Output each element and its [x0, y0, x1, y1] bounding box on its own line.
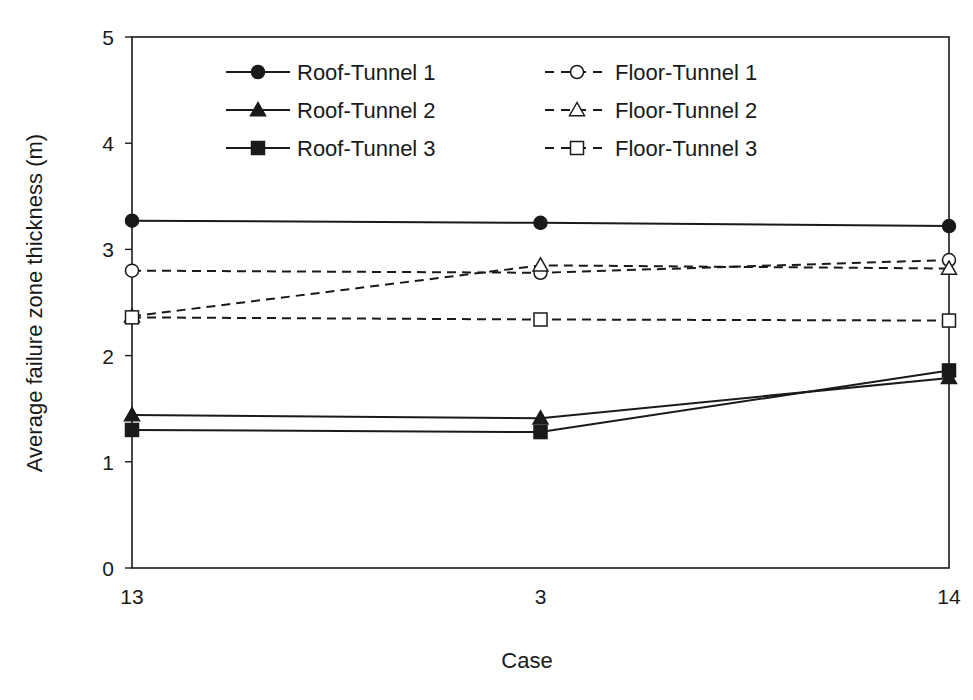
- legend-label: Roof-Tunnel 2: [297, 98, 436, 123]
- legend-item: Roof-Tunnel 1: [226, 60, 436, 85]
- circle-marker-icon: [126, 264, 139, 277]
- y-tick-label: 2: [102, 345, 114, 368]
- series-floor-tunnel-3: [126, 311, 956, 327]
- x-tick-label: 14: [937, 585, 961, 608]
- square-marker-icon: [126, 423, 139, 436]
- circle-marker-icon: [571, 66, 584, 79]
- y-tick-label: 4: [102, 132, 114, 155]
- legend-label: Floor-Tunnel 2: [615, 98, 757, 123]
- square-marker-icon: [943, 364, 956, 377]
- circle-marker-icon: [252, 66, 265, 79]
- legend-item: Roof-Tunnel 2: [226, 98, 436, 123]
- x-tick-label: 3: [535, 585, 547, 608]
- legend-item: Floor-Tunnel 2: [545, 98, 757, 123]
- circle-marker-icon: [534, 216, 547, 229]
- series-roof-tunnel-2: [125, 370, 957, 423]
- legend-label: Roof-Tunnel 3: [297, 136, 436, 161]
- y-tick-label: 1: [102, 451, 114, 474]
- circle-marker-icon: [126, 214, 139, 227]
- square-marker-icon: [534, 426, 547, 439]
- plot-frame: [132, 37, 949, 568]
- y-axis: 012345: [102, 26, 132, 580]
- x-tick-label: 13: [120, 585, 143, 608]
- square-marker-icon: [534, 313, 547, 326]
- legend-label: Floor-Tunnel 3: [615, 136, 757, 161]
- x-axis: 13314: [120, 585, 961, 608]
- legend-item: Floor-Tunnel 1: [545, 60, 757, 85]
- plot-border: [132, 37, 949, 568]
- square-marker-icon: [126, 311, 139, 324]
- y-tick-label: 5: [102, 26, 114, 49]
- legend-label: Floor-Tunnel 1: [615, 60, 757, 85]
- series-roof-tunnel-3: [126, 364, 956, 439]
- square-marker-icon: [252, 142, 265, 155]
- series-layer: [125, 214, 957, 438]
- legend-label: Roof-Tunnel 1: [297, 60, 436, 85]
- legend-item: Floor-Tunnel 3: [545, 136, 757, 161]
- y-axis-title: Average failure zone thickness (m): [22, 134, 47, 472]
- legend: Roof-Tunnel 1Roof-Tunnel 2Roof-Tunnel 3F…: [226, 60, 757, 161]
- legend-item: Roof-Tunnel 3: [226, 136, 436, 161]
- x-axis-title: Case: [501, 648, 552, 673]
- square-marker-icon: [943, 314, 956, 327]
- y-tick-label: 3: [102, 238, 114, 261]
- line-chart: 012345 13314 Roof-Tunnel 1Roof-Tunnel 2R…: [0, 0, 973, 700]
- square-marker-icon: [571, 142, 584, 155]
- y-tick-label: 0: [102, 557, 114, 580]
- triangle-marker-icon: [533, 258, 548, 271]
- circle-marker-icon: [943, 220, 956, 233]
- series-roof-tunnel-1: [126, 214, 956, 232]
